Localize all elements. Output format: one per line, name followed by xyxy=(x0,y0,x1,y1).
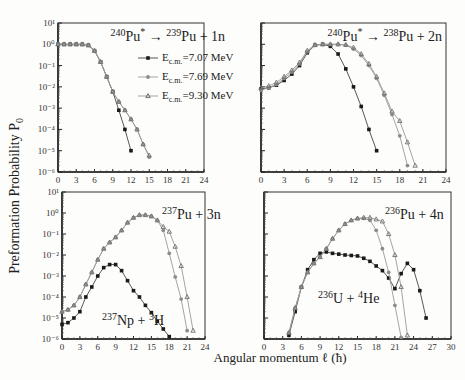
square-marker xyxy=(418,289,422,293)
panel-title: 240Pu* → 238Pu + 2n xyxy=(328,26,442,44)
square-marker xyxy=(359,105,363,109)
square-marker xyxy=(374,264,378,268)
circle-marker xyxy=(387,270,391,274)
circle-marker xyxy=(173,275,177,279)
circle-marker xyxy=(393,303,397,307)
square-marker xyxy=(331,252,335,256)
x-tick-label: 24 xyxy=(200,175,210,185)
panel-title: 236Pu + 4n xyxy=(385,205,444,222)
x-tick-label: 15 xyxy=(147,342,157,352)
x-axis-label: Angular momentum ℓ (ħ) xyxy=(180,350,380,366)
panel-annotation: 237Np + 3H xyxy=(102,311,164,328)
panel-title: 240Pu* → 239Pu + 1n xyxy=(111,26,225,44)
y-axis-label-text: Preformation Probability P xyxy=(7,123,22,274)
square-marker xyxy=(368,260,372,264)
panel-title: 237Pu + 3n xyxy=(162,205,221,222)
x-tick-label: 15 xyxy=(145,175,155,185)
y-tick-label: 10⁻² xyxy=(42,250,59,260)
square-marker xyxy=(102,266,106,270)
square-marker xyxy=(126,279,130,283)
x-tick-label: 6 xyxy=(305,175,310,185)
square-marker xyxy=(114,263,118,267)
square-marker xyxy=(60,323,64,327)
circle-marker xyxy=(259,88,263,92)
y-tick-label: 10⁻³ xyxy=(42,271,59,281)
square-marker xyxy=(367,128,371,132)
y-tick-label: 10⁻² xyxy=(38,82,55,92)
y-tick-label: 10⁻⁵ xyxy=(38,146,55,156)
x-tick-label: 0 xyxy=(56,175,61,185)
series-line xyxy=(58,44,149,155)
square-marker xyxy=(108,263,112,267)
x-tick-label: 12 xyxy=(127,175,136,185)
circle-marker xyxy=(179,297,183,301)
circle-marker xyxy=(406,164,410,168)
x-tick-label: 3 xyxy=(78,342,83,352)
square-marker xyxy=(356,254,360,258)
y-tick-label: 10⁻⁶ xyxy=(42,334,59,344)
x-tick-label: 9 xyxy=(111,175,116,185)
series-line xyxy=(261,44,377,150)
y-tick-label: 10⁰ xyxy=(42,39,55,49)
y-tick-label: 10⁻⁶ xyxy=(38,167,55,177)
square-marker xyxy=(399,272,403,276)
square-marker xyxy=(78,310,82,314)
x-tick-label: 12 xyxy=(349,175,358,185)
legend-label: Ec.m.=7.69 MeV xyxy=(162,70,233,85)
x-tick-label: 24 xyxy=(442,175,452,185)
x-tick-label: 30 xyxy=(447,342,457,352)
legend-label: Ec.m.=9.30 MeV xyxy=(162,89,233,104)
panel-top-right: 03691215182124240Pu* → 238Pu + 2n xyxy=(259,23,451,185)
x-tick-label: 18 xyxy=(395,175,405,185)
series-line xyxy=(58,44,149,157)
square-marker xyxy=(90,285,94,289)
series-line xyxy=(261,44,407,165)
x-tick-label: 24 xyxy=(409,342,419,352)
series-line xyxy=(261,44,415,165)
square-marker xyxy=(375,149,379,153)
square-marker xyxy=(120,269,124,273)
x-tick-label: 21 xyxy=(181,175,190,185)
square-marker xyxy=(362,256,366,260)
circle-marker xyxy=(161,228,165,232)
square-marker xyxy=(406,262,410,266)
panel-annotation: 236U + 4He xyxy=(318,289,379,306)
series-line xyxy=(58,44,131,150)
y-tick-label: 10¹ xyxy=(47,187,59,197)
x-tick-label: 27 xyxy=(428,342,438,352)
square-marker xyxy=(352,85,356,89)
square-marker xyxy=(66,321,70,325)
x-tick-label: 18 xyxy=(165,342,175,352)
panel-bottom-right: 036912151821242730236Pu + 4n236U + 4He xyxy=(262,192,456,352)
y-axis-label-sub: 0 xyxy=(14,118,25,123)
x-tick-label: 3 xyxy=(282,175,287,185)
y-tick-label: 10⁻⁵ xyxy=(42,313,59,323)
figure: 0369121518212410¹10⁰10⁻¹10⁻²10⁻³10⁻⁴10⁻⁵… xyxy=(0,0,465,380)
square-marker xyxy=(132,289,136,293)
x-tick-label: 6 xyxy=(92,175,97,185)
square-marker xyxy=(123,128,127,132)
square-marker xyxy=(336,52,340,56)
panel-bottom-left: 0369121518212410¹10⁰10⁻¹10⁻²10⁻³10⁻⁴10⁻⁵… xyxy=(42,187,221,352)
square-marker xyxy=(144,304,148,308)
x-tick-label: 15 xyxy=(372,175,382,185)
series-line xyxy=(289,218,401,337)
x-tick-label: 9 xyxy=(328,175,333,185)
circle-marker xyxy=(398,134,402,138)
y-tick-label: 10⁻⁴ xyxy=(42,292,59,302)
square-marker xyxy=(393,287,397,291)
square-marker xyxy=(381,269,385,273)
x-tick-label: 21 xyxy=(390,342,399,352)
square-marker xyxy=(349,254,353,258)
y-tick-label: 10⁻¹ xyxy=(38,61,55,71)
x-tick-label: 9 xyxy=(113,342,118,352)
square-marker xyxy=(84,295,88,299)
y-axis-label: Preformation Probability P0 xyxy=(6,95,26,295)
y-tick-label: 10⁻³ xyxy=(38,103,55,113)
y-tick-label: 10⁰ xyxy=(46,208,59,218)
square-marker xyxy=(138,295,142,299)
square-marker xyxy=(412,268,416,272)
circle-marker xyxy=(399,335,403,339)
x-tick-label: 0 xyxy=(259,175,264,185)
legend-square-marker xyxy=(146,56,150,60)
